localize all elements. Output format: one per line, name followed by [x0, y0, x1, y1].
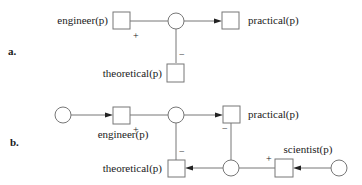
node-a-junction[interactable]: [168, 13, 184, 29]
panel-a-label: a.: [8, 45, 17, 57]
label-a-practical: practical(p): [248, 14, 299, 27]
arrowhead-b-theoretical-icon: [185, 166, 193, 171]
sign-b-plus-engineer: +: [133, 124, 139, 135]
label-b-theoretical: theoretical(p): [103, 162, 163, 175]
sign-b-plus-scientist: +: [266, 153, 272, 164]
sign-a-minus: −: [179, 49, 185, 60]
node-a-theoretical[interactable]: [167, 64, 184, 82]
node-b-source-right[interactable]: [331, 160, 347, 176]
sign-b-minus-theoretical: −: [179, 146, 185, 157]
label-a-engineer: engineer(p): [57, 14, 108, 27]
node-b-junction[interactable]: [168, 107, 184, 123]
node-a-engineer[interactable]: [113, 12, 130, 29]
arrowhead-a-practical-icon: [214, 19, 222, 24]
arrowhead-b-scientist-icon: [293, 166, 301, 171]
arrowhead-b-practical-icon: [215, 113, 223, 118]
node-b-practical[interactable]: [223, 106, 240, 123]
node-a-practical[interactable]: [222, 12, 239, 29]
diagram-canvas: a. engineer(p) practical(p) theoretical(…: [0, 0, 362, 185]
node-b-engineer[interactable]: [113, 107, 130, 124]
label-b-practical: practical(p): [248, 108, 299, 121]
label-b-scientist: scientist(p): [284, 143, 333, 156]
node-b-scientist[interactable]: [275, 159, 293, 177]
node-b-source-left[interactable]: [55, 107, 71, 123]
label-a-theoretical: theoretical(p): [103, 67, 163, 80]
sign-a-plus: +: [133, 30, 139, 41]
node-b-theoretical[interactable]: [168, 160, 185, 177]
node-b-bottom-junction[interactable]: [223, 160, 239, 176]
sign-b-minus-practical: −: [222, 123, 228, 134]
panel-b-label: b.: [10, 136, 19, 148]
label-b-engineer: engineer(p): [98, 128, 149, 141]
arrowhead-b-engineer-icon: [105, 113, 113, 118]
